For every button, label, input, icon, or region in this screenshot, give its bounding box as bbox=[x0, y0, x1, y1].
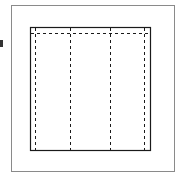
edge-marker bbox=[0, 40, 3, 47]
inner-box bbox=[31, 28, 151, 151]
layout-diagram bbox=[0, 0, 186, 175]
dashed-guides bbox=[31, 28, 150, 150]
